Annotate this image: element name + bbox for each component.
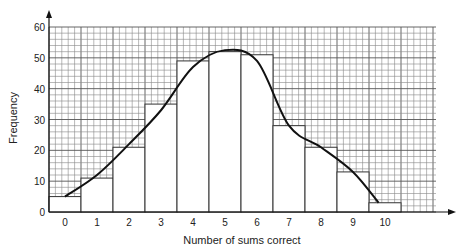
y-tick-label: 60 — [34, 22, 46, 33]
histogram-bar — [369, 203, 401, 212]
histogram-bar — [209, 52, 241, 212]
histogram-bar — [49, 197, 81, 212]
x-tick-label: 7 — [286, 217, 292, 228]
histogram-bar — [337, 172, 369, 212]
y-axis-label: Frequency — [7, 92, 19, 144]
histogram-bar — [305, 147, 337, 212]
y-tick-label: 10 — [34, 176, 46, 187]
histogram-chart: 0102030405060012345678910 Number of sums… — [0, 0, 466, 252]
x-axis-label: Number of sums correct — [183, 234, 300, 246]
histogram-bar — [177, 61, 209, 212]
x-tick-label: 10 — [379, 217, 391, 228]
histogram-bar — [113, 147, 145, 212]
x-tick-label: 4 — [190, 217, 196, 228]
histogram-bar — [273, 126, 305, 212]
x-tick-label: 3 — [158, 217, 164, 228]
x-tick-label: 9 — [350, 217, 356, 228]
y-tick-label: 20 — [34, 145, 46, 156]
y-tick-label: 40 — [34, 84, 46, 95]
y-tick-label: 0 — [39, 207, 45, 218]
y-tick-label: 50 — [34, 53, 46, 64]
x-tick-label: 8 — [318, 217, 324, 228]
histogram-bar — [145, 104, 177, 212]
x-tick-label: 2 — [126, 217, 132, 228]
histogram-bar — [241, 55, 273, 212]
x-tick-label: 0 — [62, 217, 68, 228]
y-tick-label: 30 — [34, 115, 46, 126]
x-tick-label: 1 — [94, 217, 100, 228]
x-tick-label: 5 — [222, 217, 228, 228]
x-tick-label: 6 — [254, 217, 260, 228]
